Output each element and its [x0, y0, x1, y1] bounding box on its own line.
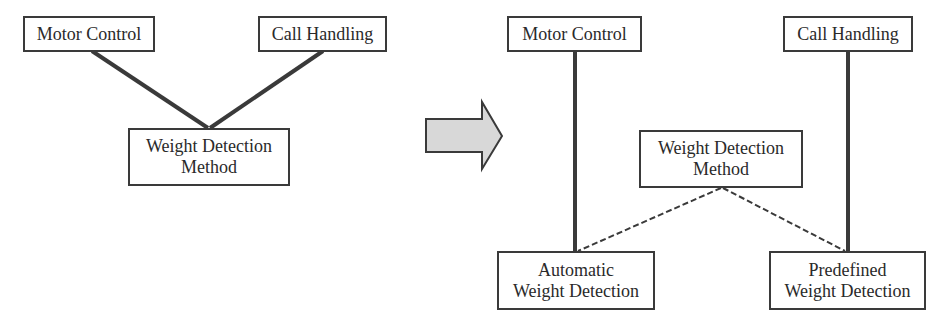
after-call-handling-node: Call Handling: [783, 16, 913, 52]
node-label-line-2: Method: [181, 157, 237, 178]
node-label: Call Handling: [797, 24, 899, 45]
after-motor-control-node: Motor Control: [507, 16, 642, 52]
node-label-line-2: Weight Detection: [784, 281, 910, 302]
node-label-line-2: Weight Detection: [513, 281, 639, 302]
node-label-line-1: Weight Detection: [658, 138, 784, 159]
transform-arrow-icon: [426, 102, 502, 169]
node-label: Motor Control: [522, 24, 627, 45]
before-weight-detection-method-node: Weight Detection Method: [128, 128, 290, 186]
edge-wdm-to-predef: [723, 188, 845, 251]
node-label-line-1: Automatic: [538, 260, 614, 281]
node-label: Call Handling: [272, 24, 374, 45]
node-label: Motor Control: [37, 24, 142, 45]
node-label-line-1: Weight Detection: [146, 136, 272, 157]
automatic-weight-detection-node: Automatic Weight Detection: [497, 251, 655, 310]
edge-call-to-wdm-before: [210, 51, 323, 128]
before-motor-control-node: Motor Control: [23, 16, 155, 52]
before-call-handling-node: Call Handling: [258, 16, 387, 52]
edge-motor-to-wdm-before: [92, 51, 208, 128]
predefined-weight-detection-node: Predefined Weight Detection: [769, 251, 926, 310]
edge-wdm-to-auto: [578, 188, 721, 251]
node-label-line-2: Method: [693, 159, 749, 180]
node-label-line-1: Predefined: [809, 260, 887, 281]
after-weight-detection-method-node: Weight Detection Method: [639, 130, 803, 188]
